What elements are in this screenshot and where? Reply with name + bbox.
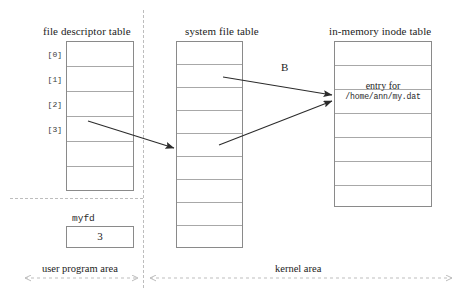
in-memory-inode-table [334,41,432,207]
sft-row-1 [177,65,242,88]
fd-row-2 [67,92,133,117]
sft-row-6 [177,180,242,203]
fd-index-0: [0] [42,50,62,59]
system-file-table [176,41,243,248]
sft-row-0 [177,42,242,65]
fd-row-5 [67,167,133,191]
arrow-label-b: B [281,61,288,73]
sft-row-4 [177,134,242,157]
file-descriptor-table [66,41,134,191]
fd-index-1: [1] [42,75,62,84]
sft-row-8 [177,226,242,247]
sft-row-3 [177,111,242,134]
user-area-horizontal-divider [10,198,143,199]
fd-row-4 [67,142,133,167]
fd-index-3: [3] [42,125,62,134]
inode-table-title: in-memory inode table [329,25,431,37]
sft-row-5 [177,157,242,180]
inode-row-0 [335,42,431,66]
kernel-area-label: kernel area [275,263,321,274]
user-program-area-label: user program area [42,263,118,274]
inode-row-5 [335,162,431,186]
inode-entry-caption: entry for [334,80,432,91]
sft-row-2 [177,88,242,111]
myfd-variable-value: 3 [67,230,133,242]
inode-row-6 [335,186,431,208]
inode-entry-path: /home/ann/my.dat [334,92,432,101]
fd-row-1 [67,67,133,92]
diagram-canvas: file descriptor table [0] [1] [2] [3] sy… [0,0,466,305]
user-kernel-divider [143,10,144,288]
fd-row-0 [67,42,133,67]
sft-row-7 [177,203,242,226]
system-file-table-title: system file table [185,25,259,37]
myfd-variable-label: myfd [72,213,95,224]
file-descriptor-table-title: file descriptor table [43,25,131,37]
fd-index-2: [2] [42,100,62,109]
inode-row-4 [335,138,431,162]
myfd-variable-box: 3 [66,226,134,248]
inode-row-3 [335,114,431,138]
fd-row-3 [67,117,133,142]
